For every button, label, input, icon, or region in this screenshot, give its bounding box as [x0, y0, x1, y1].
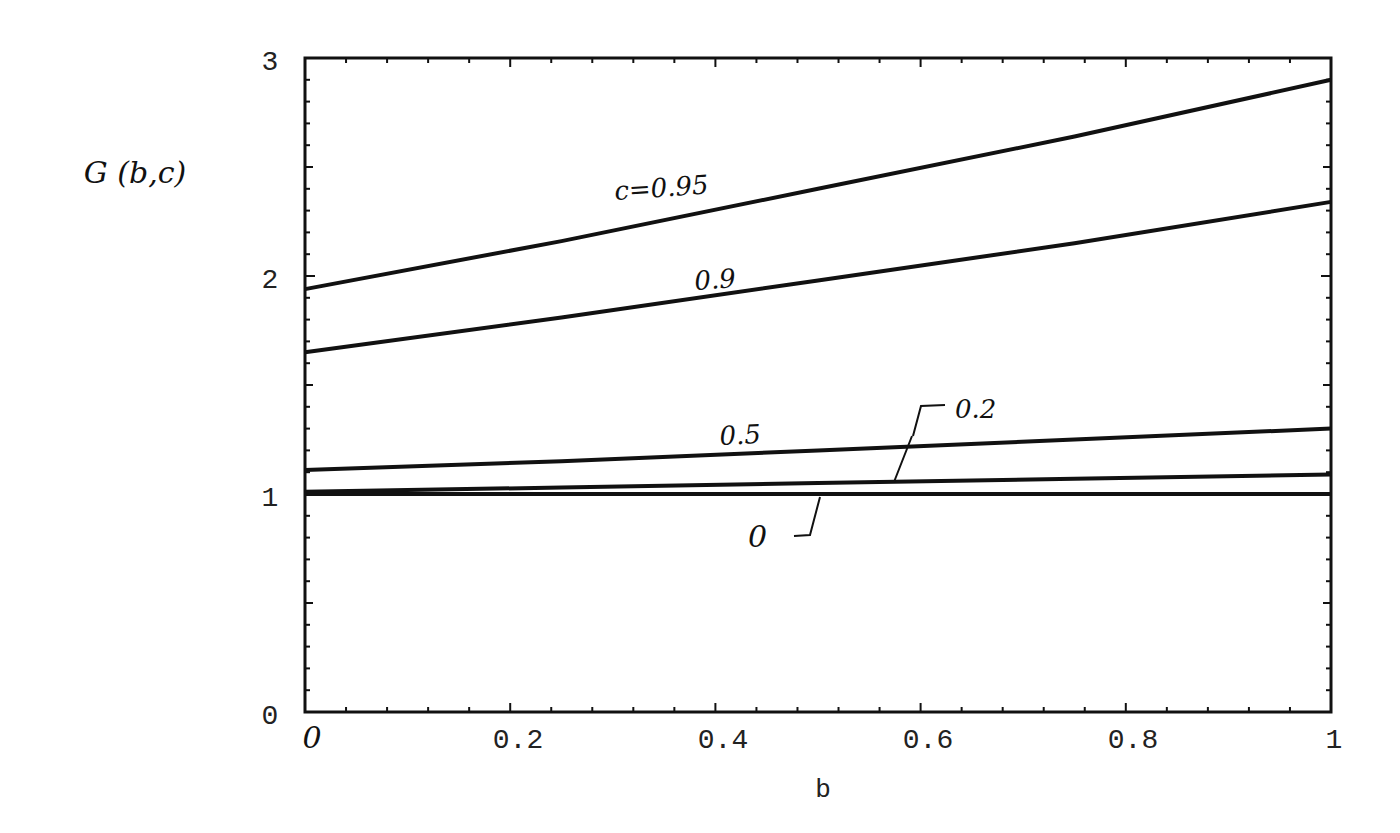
- x-tick-label: 0.8: [1108, 725, 1158, 756]
- x-tick-label: 0.2: [493, 725, 543, 756]
- curve-c09: [305, 202, 1331, 352]
- curve-label-c095: c=0.95: [613, 169, 709, 206]
- curve-label-c0: 0: [748, 519, 767, 554]
- plot-frame: [305, 58, 1331, 712]
- y-tick-label: 2: [262, 265, 279, 296]
- x-tick-label: 0.4: [698, 725, 748, 756]
- leader-line-c0: [794, 497, 820, 536]
- curve-label-c05: 0.5: [719, 419, 762, 451]
- y-tick-label: 3: [262, 47, 279, 78]
- tick-marks: [305, 58, 1331, 712]
- y-tick-label: 0: [262, 701, 279, 732]
- x-tick-label: 0: [302, 720, 321, 755]
- curve-c095: [305, 80, 1331, 289]
- chart: 3 2 1 0 0 0.2 0.4 0.6 0.8 1 b G (b,c) c=…: [0, 0, 1400, 833]
- curve-c05: [305, 429, 1331, 470]
- curve-c02: [305, 474, 1331, 491]
- y-axis-title: G (b,c): [84, 155, 186, 190]
- x-axis-title: b: [815, 775, 831, 805]
- x-tick-label: 1: [1326, 725, 1343, 756]
- curves: [305, 80, 1331, 494]
- x-tick-label: 0.6: [903, 725, 953, 756]
- y-tick-label: 1: [262, 483, 279, 514]
- curve-label-c09: 0.9: [693, 263, 736, 296]
- curve-label-c02: 0.2: [955, 394, 996, 424]
